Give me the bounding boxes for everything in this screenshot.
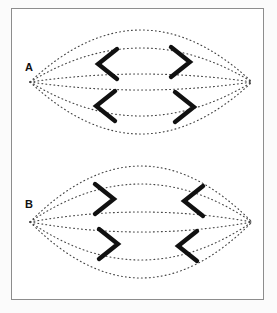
a-bottom-right-chevron — [175, 92, 194, 122]
panel-a-label: A — [25, 62, 33, 73]
a-bottom-left-chevron — [96, 91, 115, 121]
b-bottom-left-chevron — [99, 229, 118, 259]
figure-frame: A B — [11, 8, 264, 300]
b-top-right-chevron — [184, 186, 203, 216]
a-top-right-chevron — [171, 47, 190, 77]
panel-b-lens-diagram — [12, 149, 265, 295]
panel-a-lens-diagram — [12, 9, 265, 155]
panel-b: B — [12, 149, 265, 295]
figure-root: A B — [0, 0, 277, 313]
panel-a: A — [12, 9, 265, 155]
b-top-left-chevron — [95, 184, 114, 214]
b-bottom-right-chevron — [178, 231, 197, 261]
a-top-left-chevron — [98, 49, 117, 79]
panel-b-label: B — [25, 199, 33, 210]
